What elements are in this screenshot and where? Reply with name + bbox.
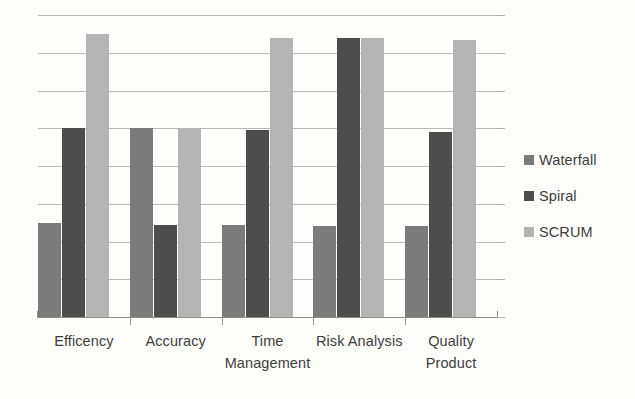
bar-spiral-accuracy[interactable] bbox=[154, 225, 177, 317]
category-label-risk-analysis: Risk Analysis bbox=[313, 330, 405, 352]
y-axis-tick bbox=[497, 15, 505, 16]
bar-scrum-time-management[interactable] bbox=[270, 38, 293, 317]
legend: WaterfallSpiralSCRUM bbox=[524, 150, 632, 258]
bar-group bbox=[130, 15, 222, 317]
bar-group bbox=[313, 15, 405, 317]
category-label-line: Risk Analysis bbox=[313, 330, 405, 352]
bar-spiral-time-management[interactable] bbox=[246, 130, 269, 317]
bars-layer bbox=[38, 15, 497, 317]
y-axis-tick bbox=[497, 128, 505, 129]
legend-swatch-waterfall bbox=[524, 155, 534, 165]
category-label-time-management: TimeManagement bbox=[222, 330, 314, 374]
bar-waterfall-efficency[interactable] bbox=[38, 223, 61, 317]
bar-spiral-efficency[interactable] bbox=[62, 128, 85, 317]
category-separator-tick bbox=[130, 318, 131, 325]
bar-scrum-quality-product[interactable] bbox=[453, 40, 476, 317]
category-label-efficency: Efficency bbox=[38, 330, 130, 352]
category-label-line: Accuracy bbox=[130, 330, 222, 352]
bar-spiral-risk-analysis[interactable] bbox=[337, 38, 360, 317]
y-axis-tick bbox=[497, 204, 505, 205]
x-axis-left-cap bbox=[37, 311, 38, 318]
bar-group bbox=[38, 15, 130, 317]
y-axis-tick bbox=[497, 242, 505, 243]
category-separator-tick bbox=[222, 318, 223, 325]
bar-scrum-risk-analysis[interactable] bbox=[361, 38, 384, 317]
bar-waterfall-accuracy[interactable] bbox=[130, 128, 153, 317]
category-label-line: Management bbox=[222, 352, 314, 374]
bar-scrum-efficency[interactable] bbox=[86, 34, 109, 317]
bar-scrum-accuracy[interactable] bbox=[178, 128, 201, 317]
category-axis-labels: EfficencyAccuracyTimeManagementRisk Anal… bbox=[38, 330, 497, 396]
y-axis-tick bbox=[497, 279, 505, 280]
bar-group bbox=[405, 15, 497, 317]
y-axis-tick bbox=[497, 317, 505, 318]
bar-waterfall-time-management[interactable] bbox=[222, 225, 245, 317]
legend-item-scrum[interactable]: SCRUM bbox=[524, 222, 632, 242]
bar-chart: EfficencyAccuracyTimeManagementRisk Anal… bbox=[0, 0, 635, 399]
category-separator-tick bbox=[405, 318, 406, 325]
category-label-line: Efficency bbox=[38, 330, 130, 352]
legend-label: Spiral bbox=[539, 188, 577, 204]
y-axis-tick bbox=[497, 91, 505, 92]
legend-item-spiral[interactable]: Spiral bbox=[524, 186, 632, 206]
legend-swatch-spiral bbox=[524, 191, 534, 201]
y-axis-tick bbox=[497, 166, 505, 167]
category-label-line: Product bbox=[405, 352, 497, 374]
legend-label: Waterfall bbox=[539, 152, 597, 168]
category-separator-tick bbox=[313, 318, 314, 325]
bar-group bbox=[222, 15, 314, 317]
legend-label: SCRUM bbox=[539, 224, 593, 240]
y-axis-tick bbox=[497, 53, 505, 54]
category-label-accuracy: Accuracy bbox=[130, 330, 222, 352]
bar-spiral-quality-product[interactable] bbox=[429, 132, 452, 317]
category-label-quality-product: QualityProduct bbox=[405, 330, 497, 374]
legend-item-waterfall[interactable]: Waterfall bbox=[524, 150, 632, 170]
category-label-line: Quality bbox=[405, 330, 497, 352]
bar-waterfall-quality-product[interactable] bbox=[405, 226, 428, 317]
legend-swatch-scrum bbox=[524, 227, 534, 237]
bar-waterfall-risk-analysis[interactable] bbox=[313, 226, 336, 317]
x-axis-baseline bbox=[37, 317, 498, 318]
category-label-line: Time bbox=[222, 330, 314, 352]
